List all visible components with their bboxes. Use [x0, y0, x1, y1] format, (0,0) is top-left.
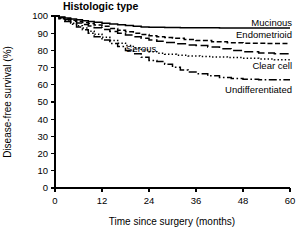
- survival-chart: 010203040506070809010001224364860 Mucino…: [0, 0, 304, 229]
- curve-label-mucinous: Mucinous: [251, 17, 292, 28]
- x-axis-tick-label: 36: [191, 195, 202, 206]
- y-axis-tick-label: 80: [37, 45, 48, 56]
- y-axis-tick-label: 70: [37, 62, 48, 73]
- x-axis-tick-label: 0: [52, 195, 57, 206]
- curve-label-undifferentiated: Undifferentiated: [225, 84, 292, 95]
- chart-title: Histologic type: [63, 0, 138, 12]
- y-axis-tick-label: 60: [37, 79, 48, 90]
- curve-label-serous: Serous: [126, 43, 156, 54]
- y-axis-tick-label: 10: [37, 165, 48, 176]
- y-axis-tick-label: 20: [37, 148, 48, 159]
- y-axis-tick-label: 0: [43, 182, 48, 193]
- y-axis-tick-label: 40: [37, 114, 48, 125]
- x-axis-tick-label: 24: [144, 195, 155, 206]
- y-axis-tick-label: 30: [37, 131, 48, 142]
- y-axis-tick-label: 100: [32, 10, 48, 21]
- x-axis-tick-label: 60: [285, 195, 296, 206]
- curve-label-clear-cell: Clear cell: [252, 60, 292, 71]
- x-axis-tick-label: 12: [97, 195, 108, 206]
- figure-container: 010203040506070809010001224364860 Mucino…: [0, 0, 304, 229]
- x-axis-title: Time since surgery (months): [109, 216, 235, 227]
- y-axis-title: Disease-free survival (%): [2, 46, 13, 158]
- curve-label-endometrioid: Endometrioid: [236, 29, 292, 40]
- y-axis-tick-label: 90: [37, 28, 48, 39]
- y-axis-tick-label: 50: [37, 96, 48, 107]
- x-axis-tick-label: 48: [238, 195, 249, 206]
